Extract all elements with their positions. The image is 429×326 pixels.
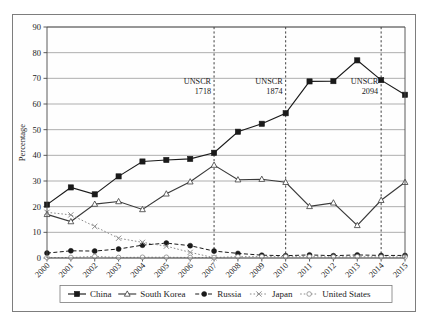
x-tick-label: 2007 [200, 260, 219, 279]
annotation-label: UNSCR [351, 77, 379, 86]
y-tick-label: 80 [33, 48, 42, 58]
y-tick-label: 20 [33, 202, 42, 212]
series-south-korea [44, 162, 408, 228]
series-line [47, 256, 405, 257]
marker-filled-square [355, 58, 360, 63]
marker-open-circle [331, 255, 336, 260]
marker-filled-square [259, 121, 264, 126]
marker-filled-square [74, 291, 79, 296]
marker-cross [116, 236, 121, 241]
series-line [47, 165, 405, 225]
y-tick-label: 90 [33, 22, 42, 32]
x-tick-label: 2014 [367, 260, 387, 280]
y-axis-label: Percentage [17, 124, 27, 162]
data-series [44, 58, 408, 261]
y-tick-label: 40 [33, 150, 42, 160]
marker-filled-square [283, 111, 288, 116]
marker-filled-square [164, 157, 169, 162]
figure-frame: 0102030405060708090 20002001200220032004… [12, 14, 416, 312]
marker-open-circle [379, 255, 384, 260]
legend-label: China [90, 289, 112, 299]
y-tick-label: 70 [33, 73, 42, 83]
marker-open-circle [116, 255, 121, 260]
marker-open-circle [140, 255, 145, 260]
marker-filled-square [140, 159, 145, 164]
marker-open-triangle [378, 197, 384, 202]
x-tick-label: 2010 [271, 260, 290, 279]
marker-filled-square [331, 79, 336, 84]
x-tick-label: 2015 [391, 260, 410, 279]
x-tick-label: 2001 [56, 260, 75, 279]
x-tick-label: 2004 [128, 260, 148, 280]
x-tick-label: 2008 [223, 260, 242, 279]
line-chart: 0102030405060708090 20002001200220032004… [13, 15, 415, 311]
annotations: UNSCR1718UNSCR1874UNSCR2094 [184, 77, 379, 96]
legend-label: United States [322, 289, 371, 299]
x-tick-label: 2000 [33, 260, 52, 279]
marker-open-circle [212, 255, 217, 260]
x-axis-ticks: 2000200120022003200420052006200720082009… [33, 258, 410, 279]
annotation-label: UNSCR [255, 77, 283, 86]
x-tick-label: 2005 [152, 260, 171, 279]
series-russia [45, 241, 408, 259]
marker-filled-square [211, 150, 216, 155]
marker-filled-circle [202, 292, 207, 297]
marker-filled-square [68, 185, 73, 190]
marker-cross [92, 224, 97, 229]
marker-filled-circle [116, 247, 121, 252]
y-tick-label: 60 [33, 99, 42, 109]
x-tick-label: 2011 [295, 260, 314, 279]
legend-label: Russia [217, 289, 241, 299]
marker-filled-square [188, 156, 193, 161]
y-tick-label: 10 [33, 227, 42, 237]
y-axis-ticks: 0102030405060708090 [33, 22, 48, 263]
marker-filled-circle [188, 243, 193, 248]
x-tick-label: 2006 [176, 260, 195, 279]
y-tick-label: 30 [33, 176, 42, 186]
marker-filled-square [116, 174, 121, 179]
y-tick-label: 0 [37, 253, 41, 263]
marker-open-circle [164, 255, 169, 260]
marker-filled-circle [92, 249, 97, 254]
x-tick-label: 2002 [80, 260, 99, 279]
marker-open-triangle [116, 198, 122, 203]
series-line [47, 243, 405, 256]
x-tick-label: 2012 [319, 260, 338, 279]
chart-legend: ChinaSouth KoreaRussiaJapanUnited States [60, 286, 392, 303]
x-tick-label: 2009 [247, 260, 266, 279]
annotation-value: 1874 [266, 87, 282, 96]
marker-open-triangle [211, 162, 217, 167]
marker-filled-square [235, 129, 240, 134]
marker-filled-circle [212, 249, 217, 254]
legend-label: Japan [272, 289, 293, 299]
annotation-value: 1718 [195, 87, 211, 96]
annotation-value: 2094 [362, 87, 378, 96]
marker-filled-circle [68, 248, 73, 253]
x-tick-label: 2013 [343, 260, 362, 279]
marker-filled-square [92, 192, 97, 197]
marker-filled-square [307, 79, 312, 84]
legend-label: South Korea [140, 289, 185, 299]
annotation-label: UNSCR [184, 77, 212, 86]
marker-open-circle [69, 255, 74, 260]
marker-open-triangle [331, 200, 337, 205]
x-tick-label: 2003 [104, 260, 123, 279]
marker-open-circle [188, 255, 193, 260]
y-tick-label: 50 [33, 125, 42, 135]
marker-open-circle [307, 292, 312, 297]
marker-filled-square [379, 78, 384, 83]
